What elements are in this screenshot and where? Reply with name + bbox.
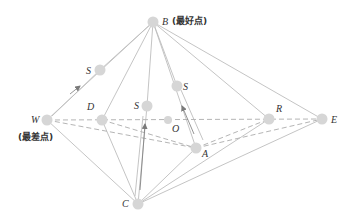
point-B (148, 17, 159, 28)
edge-B-R (153, 22, 269, 119)
edge-C-R (138, 119, 269, 204)
label-B: B (162, 17, 168, 27)
edge-B-S2 (147, 22, 153, 106)
edge-C-A (138, 148, 196, 204)
label-C: C (122, 199, 129, 209)
label-W-worst-point: (最差点) (18, 133, 53, 142)
edge-B-S1 (100, 22, 153, 70)
reflection-guide-line (52, 67, 103, 116)
contraction-guide-line (135, 116, 143, 196)
label-S-upper-right: S (183, 82, 188, 92)
label-S-middle: S (134, 101, 139, 111)
point-S2 (142, 101, 153, 112)
edge-B-E (153, 22, 322, 119)
label-E: E (331, 115, 337, 125)
point-S1 (95, 65, 106, 76)
point-A (191, 143, 202, 154)
point-W (42, 115, 53, 126)
label-O: O (172, 124, 179, 134)
label-A: A (202, 149, 208, 159)
dashed-edges (47, 119, 322, 148)
point-S3 (172, 81, 183, 92)
point-R (264, 114, 275, 125)
dashed-edge-W-E (47, 119, 322, 120)
edge-C-W (47, 120, 138, 204)
label-B-best-point: (最好点) (172, 17, 207, 26)
label-D: D (87, 102, 94, 112)
point-E (317, 114, 328, 125)
point-O (164, 116, 172, 124)
point-C (133, 199, 144, 210)
diagram-canvas (0, 0, 355, 220)
simplex-diagram: B (最好点) W (最差点) D S S S O R E A C (0, 0, 355, 220)
dashed-edge-D-A (102, 120, 196, 148)
direction-arrow-icon (140, 124, 145, 190)
label-R: R (276, 104, 282, 114)
edge-C-D (102, 120, 138, 204)
label-W: W (31, 115, 39, 125)
label-S-upper-left: S (86, 66, 91, 76)
dashed-edge-A-R (196, 119, 269, 148)
point-D (97, 115, 108, 126)
edge-C-E (138, 119, 322, 204)
